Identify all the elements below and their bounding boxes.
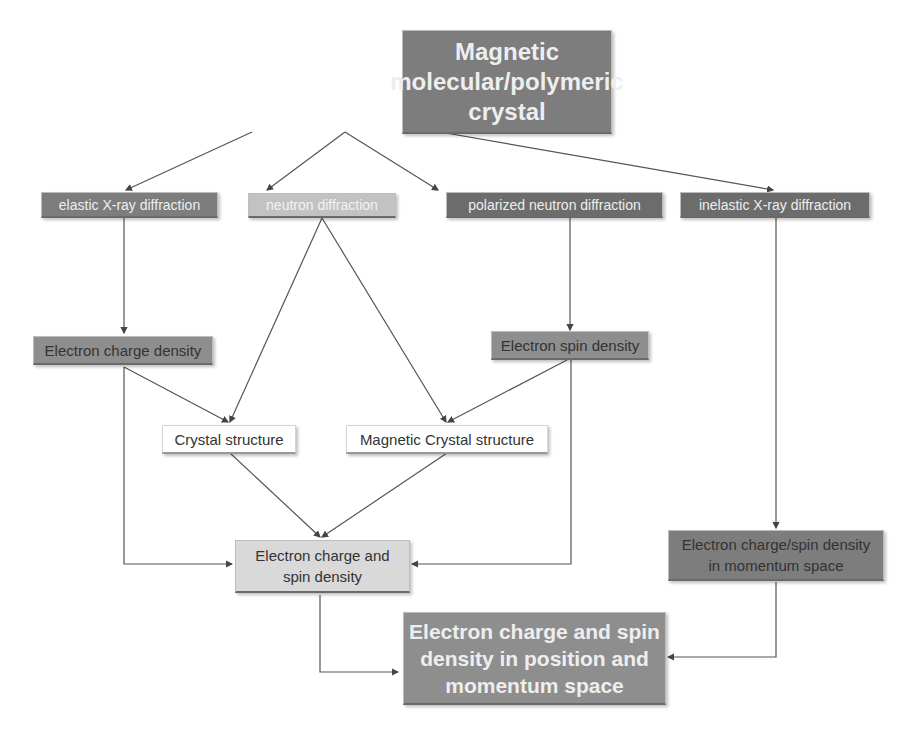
- node-charge-density: Electron charge density: [33, 336, 213, 365]
- node-momentum-density: Electron charge/spin density in momentum…: [668, 530, 884, 581]
- root-label-line-3: crystal: [468, 97, 545, 127]
- node-spin-density-label: Electron spin density: [501, 337, 639, 354]
- node-final-line-1: Electron charge and spin: [409, 618, 660, 645]
- node-crystal-structure-label: Crystal structure: [174, 431, 283, 448]
- node-final-line-3: momentum space: [445, 672, 624, 699]
- root-node: Magnetic molecular/polymeric crystal: [402, 30, 612, 134]
- node-charge-spin-density-line-1: Electron charge and: [255, 545, 389, 566]
- node-momentum-density-line-1: Electron charge/spin density: [682, 534, 870, 555]
- node-charge-spin-density-line-2: spin density: [283, 566, 362, 587]
- node-final-line-2: density in position and: [420, 645, 649, 672]
- node-crystal-structure: Crystal structure: [162, 425, 296, 454]
- root-label-line-1: Magnetic: [455, 37, 559, 67]
- node-polarized-neutron: polarized neutron diffraction: [446, 192, 663, 218]
- node-final-density: Electron charge and spin density in posi…: [403, 612, 666, 705]
- node-elastic-xray-label: elastic X-ray diffraction: [59, 197, 200, 213]
- node-spin-density: Electron spin density: [491, 331, 649, 360]
- node-elastic-xray: elastic X-ray diffraction: [41, 192, 218, 218]
- node-charge-spin-density: Electron charge and spin density: [235, 540, 410, 593]
- node-magnetic-crystal-structure-label: Magnetic Crystal structure: [360, 431, 534, 448]
- node-inelastic-xray-label: inelastic X-ray diffraction: [699, 197, 851, 213]
- node-magnetic-crystal-structure: Magnetic Crystal structure: [346, 425, 548, 454]
- node-inelastic-xray: inelastic X-ray diffraction: [680, 192, 870, 218]
- node-momentum-density-line-2: in momentum space: [708, 555, 843, 576]
- node-polarized-neutron-label: polarized neutron diffraction: [468, 197, 641, 213]
- node-charge-density-label: Electron charge density: [45, 342, 202, 359]
- node-neutron: neutron diffraction: [248, 193, 396, 218]
- root-label-line-2: molecular/polymeric: [390, 67, 623, 97]
- node-neutron-label: neutron diffraction: [266, 197, 378, 213]
